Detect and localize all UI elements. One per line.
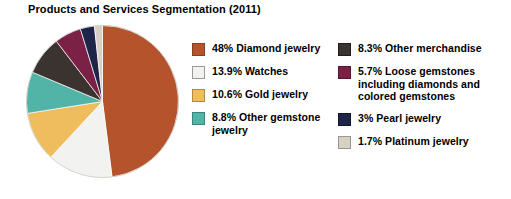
legend-item-label: 1.7% Platinum jewelry <box>358 135 469 148</box>
legend-item-label: 13.9% Watches <box>212 65 288 78</box>
legend-item-label: 8.8% Other gemstone jewelry <box>212 111 342 136</box>
legend-item-label: 48% Diamond jewelry <box>212 42 320 55</box>
pie-chart <box>26 25 179 178</box>
legend-item[interactable]: 8.8% Other gemstone jewelry <box>192 111 342 136</box>
legend-column-right: 8.3% Other merchandise5.7% Loose gemston… <box>338 42 508 158</box>
legend-item-label: 8.3% Other merchandise <box>358 42 482 55</box>
legend-swatch-icon <box>192 66 205 79</box>
legend-swatch-icon <box>338 43 351 56</box>
legend-column-left: 48% Diamond jewelry13.9% Watches10.6% Go… <box>192 42 342 145</box>
legend-item[interactable]: 3% Pearl jewelry <box>338 112 508 126</box>
page-title: Products and Services Segmentation (2011… <box>28 3 261 15</box>
legend-item[interactable]: 1.7% Platinum jewelry <box>338 135 508 149</box>
legend-item[interactable]: 10.6% Gold jewelry <box>192 88 342 102</box>
legend-swatch-icon <box>192 43 205 56</box>
legend-swatch-icon <box>192 89 205 102</box>
legend-item-label: 5.7% Loose gemstones including diamonds … <box>358 65 508 103</box>
legend-swatch-icon <box>192 112 205 125</box>
legend-item-label: 10.6% Gold jewelry <box>212 88 308 101</box>
legend-item[interactable]: 13.9% Watches <box>192 65 342 79</box>
legend-item[interactable]: 5.7% Loose gemstones including diamonds … <box>338 65 508 103</box>
legend-item-label: 3% Pearl jewelry <box>358 112 441 125</box>
legend-swatch-icon <box>338 66 351 79</box>
legend-item[interactable]: 48% Diamond jewelry <box>192 42 342 56</box>
pie-chart-svg <box>26 25 179 178</box>
legend-swatch-icon <box>338 136 351 149</box>
chart-legend: 48% Diamond jewelry13.9% Watches10.6% Go… <box>192 42 504 182</box>
pie-slice <box>103 26 179 177</box>
legend-swatch-icon <box>338 113 351 126</box>
legend-item[interactable]: 8.3% Other merchandise <box>338 42 508 56</box>
